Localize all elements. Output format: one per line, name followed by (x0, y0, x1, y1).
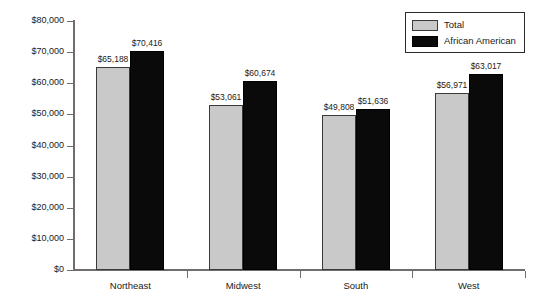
african-american-swatch (412, 36, 438, 47)
y-tick-mark (67, 208, 74, 209)
bar-value-label: $70,416 (119, 39, 175, 48)
y-tick-label-text: $40,000 (2, 141, 64, 150)
y-tick-label-text: $10,000 (2, 234, 64, 243)
y-tick-label-text: $50,000 (2, 109, 64, 118)
y-tick-label-text: $80,000 (2, 16, 64, 25)
y-tick-mark (67, 239, 74, 240)
bar-midwest-african-american (243, 81, 277, 270)
y-tick-label: $20,000 (0, 203, 64, 213)
bar-value-label: $60,674 (232, 69, 288, 78)
bar-northeast-african-american (130, 51, 164, 270)
bar-northeast-total (96, 67, 130, 270)
y-tick-mark (67, 270, 74, 271)
category-label-northeast: Northeast (80, 281, 180, 291)
bar-value-label: $51,636 (345, 97, 401, 106)
y-tick-mark (67, 114, 74, 115)
x-tick-mark (525, 271, 526, 278)
y-tick-label: $30,000 (0, 172, 64, 182)
legend-item-african-american: African American (412, 34, 518, 48)
y-tick-label: $70,000 (0, 47, 64, 57)
bar-south-total (322, 115, 356, 270)
total-swatch (412, 20, 438, 31)
y-tick-label-text: $0 (2, 265, 64, 274)
bar-west-total (435, 93, 469, 270)
y-tick-mark (67, 21, 74, 22)
x-tick-mark (300, 271, 301, 278)
bar-midwest-total (209, 105, 243, 270)
legend-label-total: Total (444, 20, 464, 30)
bar-south-african-american (356, 109, 390, 270)
y-tick-mark (67, 146, 74, 147)
y-tick-label-text: $30,000 (2, 172, 64, 181)
chart-legend: Total African American (405, 12, 525, 53)
y-tick-mark (67, 177, 74, 178)
legend-item-total: Total (412, 18, 518, 32)
y-tick-label: $0 (0, 265, 64, 275)
legend-label-african-american: African American (444, 36, 516, 46)
category-label-midwest: Midwest (193, 281, 293, 291)
y-tick-label: $60,000 (0, 78, 64, 88)
y-tick-label: $80,000 (0, 16, 64, 26)
bar-chart: $0$10,000$20,000$30,000$40,000$50,000$60… (0, 0, 539, 307)
y-tick-label-text: $70,000 (2, 47, 64, 56)
bar-value-label: $63,017 (458, 62, 514, 71)
y-tick-mark (67, 52, 74, 53)
y-tick-label-text: $20,000 (2, 203, 64, 212)
y-tick-label: $10,000 (0, 234, 64, 244)
y-tick-label: $40,000 (0, 141, 64, 151)
bar-west-african-american (469, 74, 503, 270)
x-tick-mark (187, 271, 188, 278)
category-label-west: West (419, 281, 519, 291)
category-label-south: South (306, 281, 406, 291)
x-tick-mark (412, 271, 413, 278)
y-tick-label-text: $60,000 (2, 78, 64, 87)
y-tick-label: $50,000 (0, 109, 64, 119)
y-tick-mark (67, 83, 74, 84)
